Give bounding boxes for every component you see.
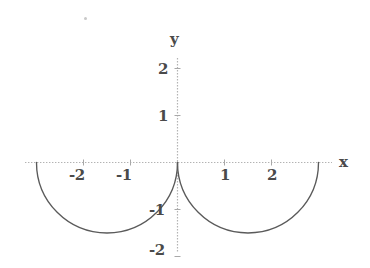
y-tick-label-2: 2 [158,60,168,78]
curve-right-arc [178,163,319,233]
x-tick-label-2: 2 [267,166,277,184]
chart-figure: y x 2 1 -1 -2 -2 -1 1 2 [0,0,370,268]
curve-left-arc [37,163,178,234]
y-axis-title: y [170,30,179,48]
y-tick-label-1: 1 [158,107,168,125]
y-tick-label-neg2: -2 [149,241,165,259]
x-axis-title: x [339,153,348,171]
x-tick-label-1: 1 [220,166,230,184]
plot-area [0,0,370,268]
x-tick-label-neg1: -1 [116,166,132,184]
y-tick-label-neg1: -1 [149,201,165,219]
x-tick-label-neg2: -2 [69,166,85,184]
